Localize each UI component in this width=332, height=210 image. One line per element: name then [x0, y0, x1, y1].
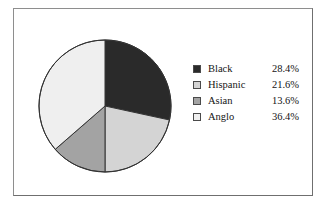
chart-figure-frame: Black 28.4% Hispanic 21.6% Asian 13.6% A…: [13, 8, 313, 196]
legend-swatch-black: [193, 65, 201, 73]
legend-label-black: Black: [208, 63, 272, 75]
legend-item-anglo[interactable]: Anglo 36.4%: [193, 109, 299, 125]
legend-value-black: 28.4%: [272, 63, 299, 75]
legend-label-hispanic: Hispanic: [208, 79, 272, 91]
legend-value-asian: 13.6%: [272, 95, 299, 107]
legend-label-anglo: Anglo: [208, 111, 272, 123]
legend-swatch-anglo: [193, 113, 201, 121]
pie-slices: [39, 40, 171, 172]
pie-chart-svg: [37, 38, 173, 174]
legend-item-hispanic[interactable]: Hispanic 21.6%: [193, 77, 299, 93]
pie-chart: [37, 38, 173, 174]
legend-value-anglo: 36.4%: [272, 111, 299, 123]
chart-legend: Black 28.4% Hispanic 21.6% Asian 13.6% A…: [193, 61, 299, 125]
legend-item-asian[interactable]: Asian 13.6%: [193, 93, 299, 109]
legend-swatch-hispanic: [193, 81, 201, 89]
legend-label-asian: Asian: [208, 95, 272, 107]
legend-value-hispanic: 21.6%: [272, 79, 299, 91]
legend-swatch-asian: [193, 97, 201, 105]
legend-item-black[interactable]: Black 28.4%: [193, 61, 299, 77]
